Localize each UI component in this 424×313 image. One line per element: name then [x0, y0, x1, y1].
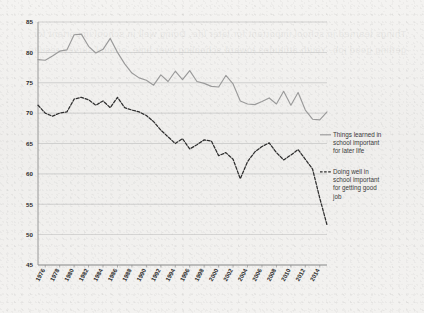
x-axis-tick-label: 1976 [35, 267, 47, 282]
x-axis-tick-label: 1998 [193, 267, 205, 282]
x-axis-tick-label: 1988 [121, 267, 133, 282]
line-chart: 4550556065707580851976197819801982198419… [0, 0, 424, 313]
series-line-solid [38, 34, 327, 120]
y-axis-tick-label: 75 [26, 79, 33, 86]
y-axis-tick-label: 55 [26, 201, 33, 208]
y-axis-tick-label: 80 [26, 49, 33, 56]
y-axis-tick-label: 50 [26, 231, 33, 238]
x-axis-tick-label: 2002 [222, 267, 234, 282]
x-axis-tick-label: 1994 [165, 267, 177, 282]
x-axis-tick-label: 2004 [237, 267, 249, 282]
x-axis-tick-label: 1978 [49, 267, 61, 282]
x-axis-tick-label: 1990 [136, 267, 148, 282]
x-axis-tick-label: 2000 [208, 267, 220, 282]
y-axis-tick-label: 60 [26, 170, 33, 177]
x-axis-tick-label: 1980 [63, 267, 75, 282]
x-axis-tick-label: 1982 [78, 267, 90, 282]
x-axis-tick-label: 2008 [266, 267, 278, 282]
y-axis-tick-label: 65 [26, 140, 33, 147]
series-line-dashed [38, 97, 327, 225]
legend-label-dashed: Doing well inschool importantfor getting… [332, 168, 379, 201]
y-axis-tick-label: 70 [26, 109, 33, 116]
x-axis-tick-label: 1986 [107, 267, 119, 282]
x-axis-tick-label: 2006 [251, 267, 263, 282]
y-axis-tick-label: 85 [26, 18, 33, 25]
x-axis-tick-label: 2014 [309, 267, 321, 282]
chart-svg: 4550556065707580851976197819801982198419… [0, 0, 424, 313]
y-axis-tick-label: 45 [26, 261, 33, 268]
x-axis-tick-label: 1984 [92, 267, 104, 282]
x-axis-tick-label: 2012 [295, 267, 307, 282]
x-axis-tick-label: 2010 [280, 267, 292, 282]
x-axis-tick-label: 1996 [179, 267, 191, 282]
legend-label-solid: Things learned inschool importantfor lat… [333, 131, 382, 154]
x-axis-tick-label: 1992 [150, 267, 162, 282]
